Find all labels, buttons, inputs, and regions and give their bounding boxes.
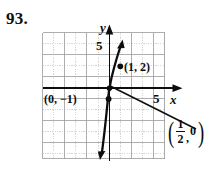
fraction-zero-value: 0 xyxy=(190,125,196,137)
x-axis-label: x xyxy=(170,93,177,106)
figure-container: 93. xyxy=(0,0,221,171)
annotation-point-0-neg1: (0, −1) xyxy=(44,93,77,105)
point-marker-1-2 xyxy=(117,63,123,69)
annotation-point-half-0: ( 1 2 , 0 ) xyxy=(166,118,206,145)
y-tick-label-5: 5 xyxy=(96,39,103,52)
close-paren: ) xyxy=(198,120,204,143)
point-marker-0-neg1 xyxy=(106,96,112,102)
x-axis xyxy=(43,84,183,92)
annotation-point-1-2: (1, 2) xyxy=(124,61,150,73)
y-axis-label: y xyxy=(100,21,106,34)
open-paren: ( xyxy=(168,120,174,143)
point-marker-intersection xyxy=(107,86,112,91)
fraction-comma: , xyxy=(186,132,189,145)
coordinate-plane-graph xyxy=(0,0,221,171)
x-tick-label-5: 5 xyxy=(153,92,160,105)
fraction-one-half: 1 2 xyxy=(176,118,185,145)
fraction-denominator: 2 xyxy=(178,133,184,145)
fraction-numerator: 1 xyxy=(178,118,184,130)
